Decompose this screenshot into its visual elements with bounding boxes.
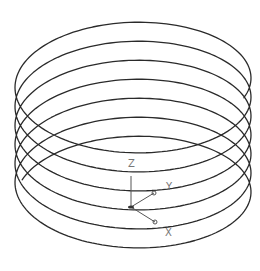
helix-curve[interactable] <box>15 22 251 248</box>
ucs-y-label: Y <box>165 181 173 192</box>
ucs-z-label: Z <box>128 158 135 169</box>
ucs-x-label: X <box>165 227 172 238</box>
ucs-origin-icon <box>128 205 134 208</box>
drawing-canvas[interactable]: Z Y X <box>0 0 260 271</box>
ucs-y-axis <box>131 193 154 207</box>
